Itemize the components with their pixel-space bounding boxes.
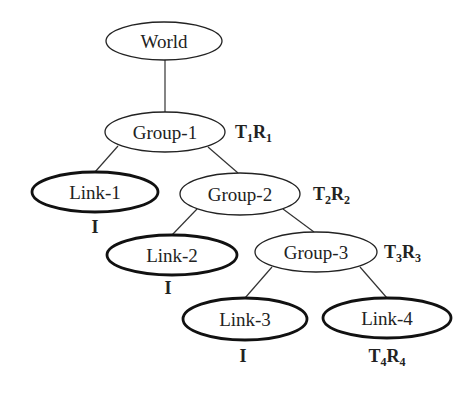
node-group3: Group-3: [255, 232, 377, 272]
transform-label-link4: T4R4: [368, 346, 405, 369]
edge-group1-to-group2: [208, 147, 238, 173]
node-label: Group-1: [133, 122, 197, 143]
edge-group2-to-link2: [172, 209, 197, 235]
transform-label-link2: I: [164, 278, 171, 298]
node-link3: Link-3: [183, 298, 307, 340]
node-link1: Link-1: [32, 172, 158, 212]
transform-label-group3: T3R3: [384, 242, 421, 265]
node-label: World: [140, 31, 188, 52]
node-group1: Group-1: [105, 112, 225, 152]
edge-group1-to-link1: [95, 146, 118, 172]
transform-label-link3: I: [239, 346, 246, 366]
edge-group2-to-group3: [283, 209, 314, 232]
node-link4: Link-4: [323, 298, 451, 338]
node-group2: Group-2: [180, 173, 300, 215]
node-label: Link-4: [361, 308, 413, 329]
node-link2: Link-2: [107, 235, 237, 275]
diagram-canvas: WorldGroup-1Link-1Group-2Link-2Group-3Li…: [0, 0, 473, 394]
transform-label-link1: I: [91, 217, 98, 237]
node-label: Link-1: [69, 182, 121, 203]
node-label: Link-2: [146, 245, 198, 266]
node-world: World: [106, 22, 222, 60]
nodes-layer: WorldGroup-1Link-1Group-2Link-2Group-3Li…: [32, 22, 451, 340]
node-label: Link-3: [219, 309, 271, 330]
node-label: Group-3: [284, 242, 348, 263]
edge-group3-to-link4: [360, 267, 387, 298]
scene-graph-diagram: WorldGroup-1Link-1Group-2Link-2Group-3Li…: [0, 0, 473, 394]
transform-label-group2: T2R2: [313, 184, 350, 207]
transform-label-group1: T1R1: [235, 122, 272, 145]
edge-group3-to-link3: [245, 267, 272, 298]
node-label: Group-2: [208, 184, 272, 205]
